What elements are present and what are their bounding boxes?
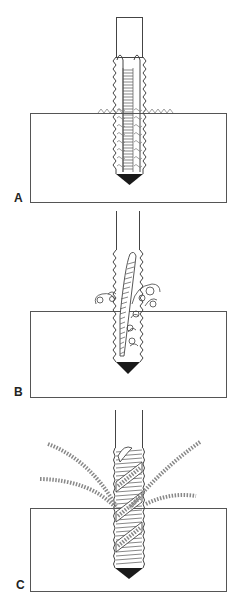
packed-chips-a (117, 109, 142, 168)
panel-label-a: A (14, 192, 23, 204)
workpiece-c (31, 509, 227, 592)
tap-diagram-c (0, 400, 242, 594)
panel-c: C (0, 400, 242, 594)
tap-thread-left-b (113, 250, 116, 362)
panel-label-b: B (14, 386, 23, 398)
panel-label-c: C (16, 579, 25, 591)
tap-diagram-a (0, 0, 242, 206)
spiral-flute-b (120, 252, 136, 356)
tap-thread-left-a (113, 57, 116, 174)
tap-thread-right-a (143, 57, 146, 174)
tap-diagram-b (0, 206, 242, 400)
core-hatch-a (123, 68, 133, 172)
workpiece-b (31, 312, 227, 398)
panel-a: A (0, 0, 242, 206)
panel-b: B (0, 206, 242, 400)
tap-tip-b (116, 362, 140, 374)
surface-chips-a (98, 109, 173, 113)
tap-shank-a (117, 18, 143, 58)
tap-thread-right-b (140, 250, 143, 362)
tap-tip-a (116, 174, 143, 185)
tap-tip-c (115, 568, 143, 579)
